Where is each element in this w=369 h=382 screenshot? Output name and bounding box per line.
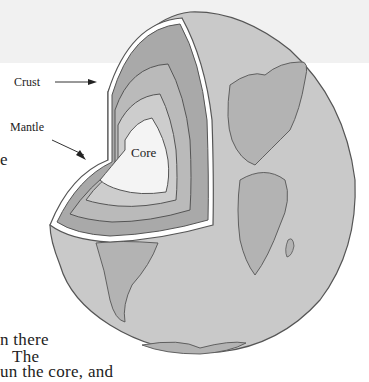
crust-arrow-head xyxy=(88,79,97,85)
crust-label: Crust xyxy=(14,75,40,90)
core-label: Core xyxy=(131,145,156,161)
mantle-label: Mantle xyxy=(10,120,44,135)
text-line-3: un the core, and xyxy=(0,362,113,382)
text-fragment-left: e xyxy=(0,150,8,170)
